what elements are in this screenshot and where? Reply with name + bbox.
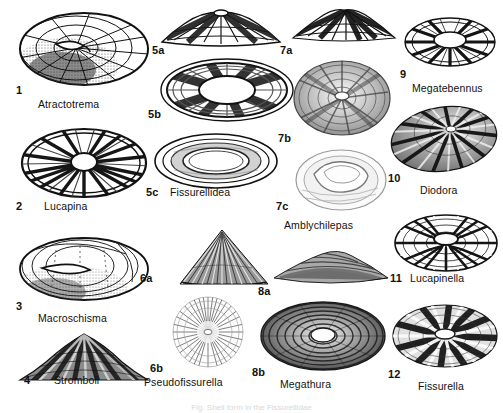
figure-8a-megathura-profile bbox=[272, 244, 390, 286]
figure-genus-10: Diodora bbox=[420, 184, 457, 196]
figure-number-12: 12 bbox=[388, 368, 401, 380]
figure-number-7a: 7a bbox=[280, 44, 293, 56]
figure-5b-fissurellidea-apical bbox=[158, 58, 296, 122]
figure-11-lucapinella bbox=[392, 212, 500, 274]
shell-drawing-2 bbox=[16, 124, 152, 202]
figure-number-11: 11 bbox=[390, 272, 402, 284]
shell-drawing-7b bbox=[288, 58, 396, 138]
figure-9-megatebennus bbox=[402, 14, 498, 70]
figure-7b-amblychilepas-apical bbox=[288, 58, 396, 138]
figure-number-5a: 5a bbox=[152, 44, 165, 56]
figure-number-5b: 5b bbox=[148, 108, 161, 120]
figure-2-lucapina bbox=[16, 124, 152, 202]
figure-8b-megathura-apical bbox=[258, 300, 388, 372]
figure-number-10: 10 bbox=[388, 172, 401, 184]
figure-genus-11: Lucapinella bbox=[410, 272, 464, 284]
shell-drawing-9 bbox=[402, 14, 498, 70]
figure-genus-7c: Amblychilepas bbox=[284, 219, 353, 231]
figure-1-atractotrema bbox=[14, 8, 154, 90]
figure-genus-5c: Fissurellidea bbox=[170, 186, 230, 198]
figure-5a-fissurellidea-profile bbox=[160, 8, 282, 46]
shell-drawing-10 bbox=[388, 104, 500, 174]
figure-10-diodora bbox=[388, 104, 500, 174]
figure-number-1: 1 bbox=[16, 84, 22, 96]
figure-number-7b: 7b bbox=[278, 132, 291, 144]
figure-genus-6b: Pseudofissurella bbox=[144, 376, 223, 388]
figure-number-9: 9 bbox=[400, 68, 406, 80]
shell-drawing-8b bbox=[258, 300, 388, 372]
figure-5c-fissurellidea-basal bbox=[152, 132, 280, 190]
figure-genus-8b: Megathura bbox=[280, 378, 331, 390]
figure-number-4: 4 bbox=[24, 374, 30, 386]
shell-drawing-12 bbox=[390, 302, 500, 370]
figure-genus-4: Stromboli bbox=[54, 374, 99, 386]
figure-number-8a: 8a bbox=[258, 285, 271, 297]
figure-7c-amblychilepas-basal bbox=[292, 148, 390, 212]
shell-drawing-6b bbox=[156, 296, 260, 368]
figure-7a-amblychilepas-profile bbox=[290, 8, 398, 42]
figure-number-6a: 6a bbox=[140, 272, 153, 284]
figure-number-5c: 5c bbox=[146, 186, 159, 198]
figure-number-6b: 6b bbox=[150, 362, 163, 374]
figure-number-3: 3 bbox=[16, 300, 22, 312]
shell-drawing-7a bbox=[290, 8, 398, 42]
figure-6b-pseudofissurella-apical bbox=[156, 296, 260, 368]
shell-drawing-3 bbox=[14, 232, 154, 306]
figure-3-macroschisma bbox=[14, 232, 154, 306]
plate-bottom-caption: Fig. Shell form in the Fissurellidae bbox=[0, 403, 503, 412]
shell-drawing-7c bbox=[292, 148, 390, 212]
illustration-plate: 1 Atractotrema 2 Lucapina bbox=[0, 0, 503, 413]
shell-drawing-11 bbox=[392, 212, 500, 274]
figure-6a-pseudofissurella-profile bbox=[178, 228, 270, 286]
shell-drawing-5b bbox=[158, 58, 296, 122]
figure-genus-12: Fissurella bbox=[418, 380, 464, 392]
figure-number-7c: 7c bbox=[276, 200, 289, 212]
shell-drawing-6a bbox=[178, 228, 270, 286]
figure-number-2: 2 bbox=[16, 200, 22, 212]
figure-genus-2: Lucapina bbox=[44, 200, 87, 212]
shell-drawing-5a bbox=[160, 8, 282, 46]
figure-12-fissurella bbox=[390, 302, 500, 370]
shell-drawing-5c bbox=[152, 132, 280, 190]
figure-genus-1: Atractotrema bbox=[38, 98, 99, 110]
shell-drawing-1 bbox=[14, 8, 154, 90]
shell-drawing-8a bbox=[272, 244, 390, 286]
figure-genus-3: Macroschisma bbox=[38, 312, 107, 324]
figure-genus-9: Megatebennus bbox=[412, 82, 483, 94]
figure-number-8b: 8b bbox=[252, 366, 265, 378]
